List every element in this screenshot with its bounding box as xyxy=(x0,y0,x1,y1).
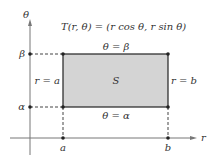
corner-dot xyxy=(166,105,170,109)
corner-dot xyxy=(61,52,65,56)
r-axis-label: r xyxy=(201,132,207,143)
beta-label: β xyxy=(18,48,25,59)
b-label: b xyxy=(165,142,171,153)
bottom-edge-label: θ = α xyxy=(102,110,130,121)
r-axis-arrow-icon xyxy=(190,136,197,140)
right-edge-label: r = b xyxy=(171,75,197,86)
polar-transform-diagram: θ r T(r, θ) = (r cos θ, r sin θ) θ = β θ… xyxy=(0,0,208,166)
b-dot xyxy=(166,136,170,140)
corner-dot xyxy=(166,52,170,56)
theta-axis-label: θ xyxy=(23,9,29,20)
a-label: a xyxy=(60,142,66,153)
top-edge-label: θ = β xyxy=(103,41,130,52)
beta-dot xyxy=(28,52,32,56)
a-dot xyxy=(61,136,65,140)
corner-dot xyxy=(61,105,65,109)
region-label: S xyxy=(113,75,120,86)
alpha-label: α xyxy=(18,101,25,112)
left-edge-label: r = a xyxy=(35,75,61,86)
transform-title: T(r, θ) = (r cos θ, r sin θ) xyxy=(61,21,186,32)
theta-axis-arrow-icon xyxy=(28,19,32,26)
alpha-dot xyxy=(28,105,32,109)
